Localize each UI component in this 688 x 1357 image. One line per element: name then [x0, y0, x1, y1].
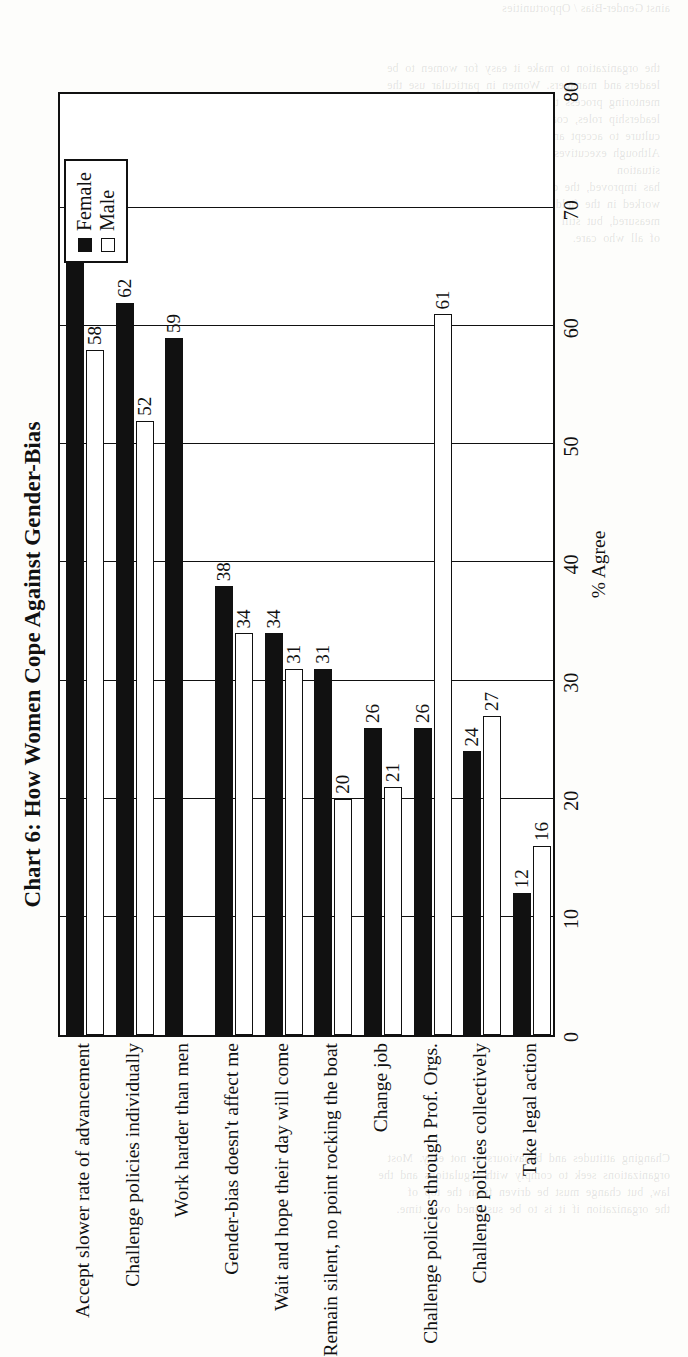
legend-item-female: Female — [73, 172, 96, 252]
category-label: Accept slower rate of advancement — [72, 1043, 94, 1318]
bar-value-label-female: 62 — [114, 279, 136, 298]
axis-tick-label: 70 — [560, 200, 583, 220]
legend-label-female: Female — [73, 172, 96, 231]
bar-male — [86, 350, 104, 1035]
bar-value-label-male: 61 — [432, 290, 454, 309]
bar-value-label-female: 34 — [263, 609, 285, 628]
category-label: Remain silent, no point rocking the boat — [320, 1043, 342, 1357]
bar-value-label-male: 21 — [382, 763, 404, 782]
gridline — [60, 562, 553, 563]
legend-label-male: Male — [96, 190, 119, 231]
bar-value-label-female: 26 — [362, 704, 384, 723]
axis-tick-label: 50 — [560, 436, 583, 456]
bar-value-label-male: 27 — [481, 692, 503, 711]
gridline — [60, 325, 553, 326]
bar-female — [463, 752, 481, 1036]
bar-value-label-female: 12 — [511, 869, 533, 888]
bar-male — [483, 716, 501, 1035]
bar-male — [334, 799, 352, 1035]
bar-male — [384, 787, 402, 1035]
axis-tick-label: 60 — [560, 318, 583, 338]
legend-item-male: Male — [96, 172, 119, 252]
category-label: Take legal action — [519, 1043, 541, 1176]
bar-male — [285, 669, 303, 1035]
chart-legend: Female Male — [64, 159, 128, 263]
bar-value-label-male: 20 — [332, 775, 354, 794]
category-label: Challenge policies through Prof. Orgs. — [420, 1043, 442, 1344]
bar-male — [136, 421, 154, 1035]
bar-female — [314, 669, 332, 1035]
gridline — [60, 680, 553, 681]
bar-value-label-female: 38 — [213, 562, 235, 581]
axis-tick-label: 10 — [560, 909, 583, 929]
bar-female — [265, 633, 283, 1035]
bar-value-label-female: 59 — [163, 314, 185, 333]
bar-value-label-female: 26 — [412, 704, 434, 723]
bar-female — [215, 586, 233, 1035]
bar-value-label-male: 52 — [134, 397, 156, 416]
axis-tick-label: 20 — [560, 791, 583, 811]
bar-female — [66, 220, 84, 1035]
bar-value-label-male: 16 — [531, 822, 553, 841]
axis-tick-label: 0 — [560, 1032, 583, 1042]
plot-area: 69586252593834343131202621266124271216 — [58, 92, 555, 1037]
bar-female — [513, 893, 531, 1035]
bar-male — [533, 846, 551, 1035]
bar-female — [364, 728, 382, 1035]
chart-title: Chart 6: How Women Cope Against Gender-B… — [20, 0, 46, 1329]
bar-female — [414, 728, 432, 1035]
bar-value-label-male: 31 — [283, 645, 305, 664]
gridline — [60, 207, 553, 208]
value-axis-title: % Agree — [588, 92, 610, 1037]
category-label: Work harder than men — [171, 1043, 193, 1217]
axis-tick-label: 80 — [560, 82, 583, 102]
gridline — [60, 443, 553, 444]
category-label: Change job — [370, 1043, 392, 1132]
bar-value-label-male: 58 — [84, 326, 106, 345]
bar-female — [116, 303, 134, 1035]
bar-value-label-male: 34 — [233, 609, 255, 628]
category-label: Wait and hope their day will come — [271, 1043, 293, 1311]
category-label: Challenge policies individually — [122, 1043, 144, 1287]
bar-male — [434, 314, 452, 1035]
axis-tick-label: 30 — [560, 673, 583, 693]
bar-value-label-female: 31 — [312, 645, 334, 664]
axis-tick-label: 40 — [560, 555, 583, 575]
bar-female — [165, 338, 183, 1035]
legend-swatch-male — [101, 238, 115, 252]
bar-male — [235, 633, 253, 1035]
bar-value-label-female: 24 — [461, 728, 483, 747]
legend-swatch-female — [78, 238, 92, 252]
category-label: Gender-bias doesn't affect me — [221, 1043, 243, 1275]
category-label: Challenge policies collectively — [469, 1043, 491, 1283]
